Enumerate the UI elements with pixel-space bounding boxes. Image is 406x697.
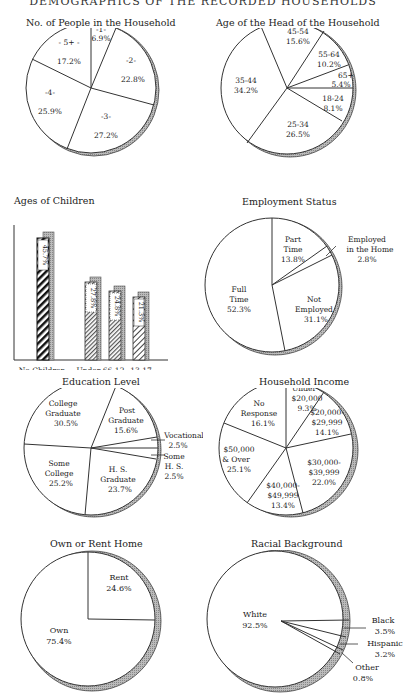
- value: 24.6%: [106, 584, 132, 593]
- label: Own: [50, 626, 69, 635]
- label: $20,000-: [310, 408, 344, 417]
- value: 23.7%: [108, 485, 132, 494]
- label: 45-54: [287, 28, 309, 36]
- value: 2.5%: [168, 441, 187, 450]
- pie-chart-income: Under $20,000 9.3% $20,000- $29,999 14.1…: [203, 388, 406, 523]
- label: 35-44: [235, 76, 257, 85]
- value: 26.5%: [286, 130, 310, 139]
- x-tick-label: No Children: [19, 366, 66, 370]
- value: 52.3%: [227, 305, 251, 314]
- label: H. S.: [165, 462, 184, 471]
- label: $30,000-: [307, 458, 341, 467]
- pie-chart-home: Rent 24.6% Own 75.4%: [0, 550, 203, 697]
- bar-no-children: 45.7%: [37, 232, 54, 360]
- value: 34.2%: [234, 86, 258, 95]
- label: Graduate: [100, 475, 136, 484]
- pie-face: [207, 551, 343, 687]
- label: Employed: [295, 305, 333, 314]
- value: 15.6%: [286, 37, 310, 46]
- label: in the Home: [347, 245, 394, 254]
- chart-title-children: Ages of Children: [14, 195, 95, 206]
- label: $39,999: [308, 468, 339, 477]
- pie-chart-people: -1- 6.9% -2- 22.8% -3- 27.2% -4- 25.9% -…: [0, 28, 203, 188]
- x-tick-label: 6-12: [108, 366, 125, 370]
- label: Not: [307, 295, 321, 304]
- value: 16.1%: [251, 419, 275, 428]
- value: 10.2%: [317, 60, 341, 69]
- value: 13.4%: [271, 501, 295, 510]
- value: 30.5%: [54, 419, 78, 428]
- label: $50,000: [223, 445, 254, 454]
- label: College: [45, 469, 74, 478]
- value: 27.2%: [94, 131, 118, 140]
- label: $40,000-: [266, 481, 300, 490]
- value: 15.6%: [114, 426, 138, 435]
- bar-value: 21.3%: [137, 302, 145, 323]
- bar-value: 24.8%: [113, 296, 121, 317]
- bar-value: 45.7%: [41, 245, 49, 266]
- label: Black: [372, 616, 395, 625]
- label: Part: [285, 235, 301, 244]
- value: 75.4%: [46, 637, 72, 646]
- label: H. S.: [109, 465, 128, 474]
- pie-chart-education: College Graduate 30.5% Post Graduate 15.…: [0, 388, 203, 523]
- label: Other: [355, 663, 379, 672]
- value: 92.5%: [242, 621, 268, 630]
- label: -3-: [101, 112, 111, 121]
- label: 18-24: [322, 94, 344, 103]
- label: 55-64: [318, 50, 340, 59]
- page-header: DEMOGRAPHICS OF THE RECORDED HOUSEHOLDS: [0, 0, 406, 5]
- label: Some: [48, 459, 70, 468]
- chart-title-people: No. of People in the Household: [26, 17, 176, 28]
- label: $29,999: [311, 418, 342, 427]
- chart-title-education: Education Level: [62, 376, 140, 387]
- label: No: [253, 399, 265, 408]
- value: 17.2%: [57, 57, 81, 66]
- value: 25.1%: [227, 465, 251, 474]
- label: Response: [241, 409, 278, 418]
- bar-6-12: 24.8%: [109, 286, 125, 360]
- value: 13.8%: [281, 255, 305, 264]
- label: $49,999: [267, 491, 298, 500]
- label: Rent: [109, 573, 129, 582]
- chart-title-employment: Employment Status: [242, 196, 337, 207]
- value: 14.1%: [315, 428, 339, 437]
- bar-13-17: 21.3%: [133, 292, 149, 360]
- label: Full: [232, 285, 247, 294]
- value: 22.8%: [121, 75, 145, 84]
- value: 25.2%: [49, 479, 73, 488]
- value: 8.1%: [323, 104, 342, 113]
- chart-title-income: Household Income: [259, 376, 349, 387]
- label: -4-: [45, 88, 55, 97]
- label: College: [49, 399, 78, 408]
- label: -2-: [126, 56, 136, 65]
- value: 3.2%: [375, 650, 396, 659]
- label: Post: [119, 406, 135, 415]
- value: 5.4%: [331, 80, 350, 89]
- label: Hispanic: [367, 639, 403, 648]
- label: Time: [284, 245, 304, 254]
- label: Employed: [348, 235, 386, 244]
- value: 3.5%: [375, 627, 396, 636]
- pie-chart-employment: Part Time 13.8% Employed in the Home 2.8…: [203, 210, 406, 375]
- label: - 5+ -: [59, 38, 80, 47]
- x-tick-label: Under 6: [76, 366, 107, 370]
- value: 2.8%: [357, 255, 376, 264]
- label: & Over: [222, 455, 250, 464]
- label: Graduate: [108, 416, 144, 425]
- label: White: [243, 610, 267, 619]
- pie-chart-age: 45-54 15.6% 55-64 10.2% 65+ 5.4% 18-24 8…: [203, 28, 406, 188]
- chart-title-home: Own or Rent Home: [50, 538, 143, 549]
- chart-title-age: Age of the Head of the Household: [216, 17, 380, 28]
- label: Under: [292, 388, 316, 393]
- label: Time: [230, 295, 250, 304]
- label: Vocational: [163, 431, 203, 440]
- value: 6.9%: [91, 34, 110, 43]
- label: 65+: [338, 71, 354, 80]
- value: 0.8%: [353, 674, 374, 683]
- bar-under-6: 27.8%: [85, 277, 101, 360]
- label: Some: [163, 452, 185, 461]
- bar-chart-children: 45.7% 27.8% 24.8% 21.3% No Children Unde…: [0, 210, 203, 370]
- label: $20,000: [291, 394, 322, 403]
- value: 2.5%: [164, 472, 183, 481]
